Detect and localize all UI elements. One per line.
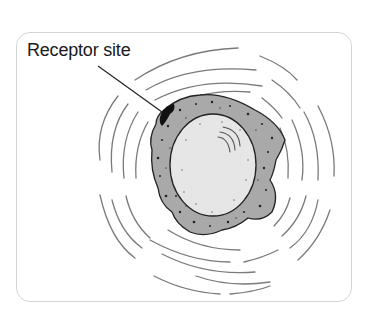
receptor-site-label: Receptor site [27,40,130,61]
nucleus [170,114,256,216]
receptor-leader-line [98,66,162,112]
